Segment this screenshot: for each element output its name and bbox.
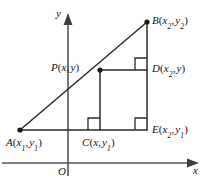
dot-p	[97, 67, 102, 72]
y-axis-label: y	[56, 8, 61, 19]
label-point-b-y-sub: 2	[180, 22, 184, 31]
x-axis-label: x	[193, 165, 198, 176]
label-point-e: E(x2, y1)	[152, 124, 188, 135]
y-axis-arrowhead	[64, 13, 73, 25]
construction-group	[20, 22, 147, 130]
right-angle-mark-c	[88, 118, 100, 130]
label-point-b-main: B	[152, 14, 159, 26]
label-point-d-main: D	[152, 62, 160, 74]
label-point-e-x: x	[163, 123, 168, 135]
label-point-a-x-sub: 1	[22, 144, 26, 153]
label-point-b-x-sub: 2	[168, 22, 172, 31]
label-point-a-main: A	[6, 136, 13, 148]
label-point-b: B(x2, y2)	[152, 15, 188, 26]
dot-a	[17, 127, 22, 132]
right-angle-mark-e	[135, 118, 147, 130]
label-point-a: A(x1, y1)	[6, 137, 42, 148]
label-point-a-x: x	[17, 136, 22, 148]
origin-label: O	[58, 166, 66, 177]
label-point-e-main: E	[152, 123, 159, 135]
right-angle-marks-group	[88, 58, 147, 130]
label-point-b-x: x	[163, 14, 168, 26]
label-point-d: D(x2, y)	[152, 63, 185, 74]
dot-b	[144, 19, 149, 24]
label-point-c-y-sub: 1	[107, 144, 111, 153]
right-angle-mark-d	[135, 58, 147, 70]
label-point-d-x-sub: 2	[169, 70, 173, 79]
figure-canvas	[0, 0, 209, 179]
label-point-e-y-sub: 1	[180, 131, 184, 140]
label-point-e-x-sub: 2	[168, 131, 172, 140]
label-point-a-y-sub: 1	[34, 144, 38, 153]
label-point-c: C(x, y1)	[82, 137, 115, 148]
label-point-p-main: P	[51, 61, 58, 73]
label-point-p: P(x, y)	[51, 62, 79, 73]
coordinate-geometry-figure: B(x2, y2) P(x, y) D(x2, y) E(x2, y1) A(x…	[0, 0, 209, 179]
segment-ab	[20, 22, 147, 130]
